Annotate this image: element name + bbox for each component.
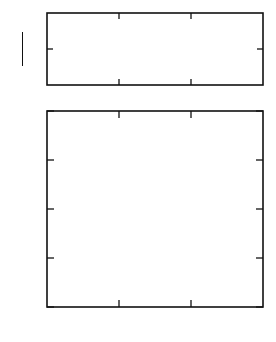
scientific-figure <box>0 0 276 342</box>
panel-bottom <box>47 111 263 307</box>
panel-bottom-yticks <box>47 111 263 307</box>
panel-top <box>23 13 264 85</box>
figure-container <box>0 0 276 342</box>
panel-top-xticks <box>119 13 191 85</box>
panel-bottom-frame <box>47 111 263 307</box>
panel-bottom-xticks <box>119 111 191 307</box>
panel-top-frame <box>47 13 263 85</box>
